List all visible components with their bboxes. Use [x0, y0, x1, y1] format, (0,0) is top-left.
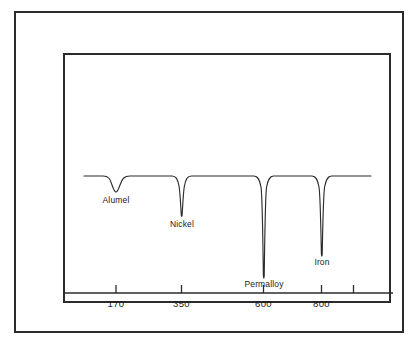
plot-area-frame: Alumel Nickel Permalloy Iron 170 350 600… [63, 53, 391, 303]
tick-label-170: 170 [108, 298, 125, 309]
tick-label-600: 600 [255, 298, 272, 309]
tick-label-800: 800 [313, 298, 330, 309]
dip-label-iron: Iron [314, 257, 329, 267]
dip-label-permalloy: Permalloy [244, 279, 283, 289]
outer-decorative-frame: Alumel Nickel Permalloy Iron 170 350 600… [14, 11, 404, 333]
figure-root: Alumel Nickel Permalloy Iron 170 350 600… [0, 0, 417, 346]
tick-label-350: 350 [173, 298, 190, 309]
dip-label-alumel: Alumel [103, 195, 130, 205]
dip-label-nickel: Nickel [170, 219, 194, 229]
spectrum-plot [65, 55, 393, 305]
